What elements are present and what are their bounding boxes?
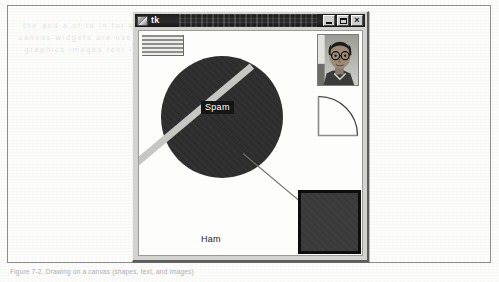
- spam-oval[interactable]: [161, 56, 283, 178]
- title-bar[interactable]: tk ×: [135, 14, 365, 27]
- scan-noise: [179, 14, 317, 27]
- spam-label[interactable]: Spam: [201, 101, 234, 114]
- quarter-arc-shape[interactable]: [317, 95, 359, 137]
- scanned-book-page: the and a of to in for with canvas widge…: [0, 0, 499, 282]
- window-title: tk: [151, 16, 159, 25]
- tk-logo-icon: [137, 16, 148, 26]
- portrait-image: [318, 35, 358, 85]
- close-button[interactable]: ×: [351, 15, 363, 26]
- tk-canvas[interactable]: Spam Ham: [138, 30, 363, 256]
- ham-label[interactable]: Ham: [201, 234, 221, 244]
- minimize-button[interactable]: [323, 15, 335, 26]
- filled-rectangle[interactable]: [298, 190, 361, 254]
- tk-window[interactable]: tk × Spam Ham: [132, 11, 369, 262]
- window-controls[interactable]: ×: [323, 15, 363, 26]
- maximize-button[interactable]: [337, 15, 349, 26]
- photo-thumbnail[interactable]: [317, 34, 359, 86]
- arc-outline-icon: [317, 95, 359, 137]
- striped-list-widget[interactable]: [142, 35, 184, 56]
- figure-caption: Figure 7-2. Drawing on a canvas (shapes,…: [10, 268, 194, 275]
